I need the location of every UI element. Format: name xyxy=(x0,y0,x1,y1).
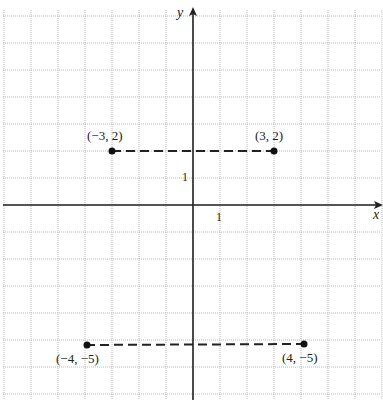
y-tick-label: 1 xyxy=(182,170,188,185)
x-tick-label: 1 xyxy=(216,210,222,225)
coordinate-plane xyxy=(0,0,383,406)
y-axis-label: y xyxy=(177,5,183,21)
point-label-neg3-2: (−3, 2) xyxy=(87,128,123,144)
point-3-2 xyxy=(271,148,278,155)
point-4-neg5 xyxy=(301,341,308,348)
point-neg3-2 xyxy=(109,148,116,155)
x-axis-label: x xyxy=(373,207,379,223)
point-label-3-2: (3, 2) xyxy=(255,128,283,144)
point-neg4-neg5 xyxy=(84,342,91,349)
segment-lower xyxy=(86,344,303,345)
point-label-neg4-neg5: (−4, −5) xyxy=(56,351,99,367)
point-label-4-neg5: (4, −5) xyxy=(282,350,318,366)
